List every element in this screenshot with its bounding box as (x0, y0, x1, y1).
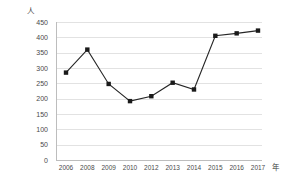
data-point-marker (213, 34, 217, 38)
data-point-marker (170, 81, 174, 85)
data-point-marker (106, 82, 110, 86)
data-point-marker (256, 28, 260, 32)
data-point-marker (85, 47, 89, 51)
data-point-marker (192, 87, 196, 91)
data-point-marker (149, 94, 153, 98)
data-point-marker (234, 31, 238, 35)
line-chart: 人 年 050100150200250300350400450 20062008… (0, 0, 294, 186)
series-markers (64, 28, 260, 103)
series-line (66, 31, 258, 102)
data-point-marker (64, 70, 68, 74)
data-series-layer (0, 0, 294, 186)
data-point-marker (128, 99, 132, 103)
